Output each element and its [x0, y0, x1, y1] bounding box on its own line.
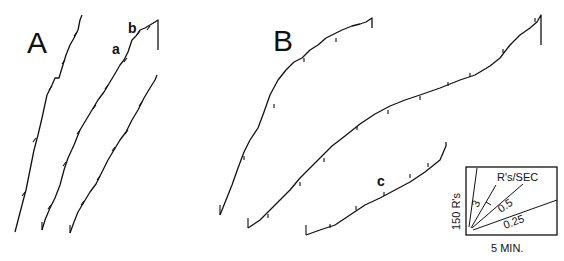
key-y-label: 150 R's	[450, 193, 462, 230]
record-b3	[306, 142, 446, 235]
key-rate-label: R's/SEC	[497, 171, 538, 183]
key-dash	[486, 202, 491, 205]
key-025-label: 0.25	[502, 212, 526, 231]
record-a2	[42, 20, 158, 230]
pip	[306, 163, 428, 235]
key-05-label: 0.5	[495, 196, 514, 215]
record-a1	[15, 15, 82, 232]
slope-line-3	[469, 168, 477, 227]
pip	[42, 26, 150, 230]
record-a3	[70, 75, 157, 233]
panel-label-a: A	[27, 26, 47, 59]
annotation-a: a	[112, 41, 120, 57]
annotation-b: b	[128, 20, 137, 36]
slope-key: R's/SEC 3 0.5 0.25 150 R's 5 MIN.	[450, 167, 557, 254]
key-3-label: 3	[469, 198, 482, 209]
key-x-label: 5 MIN.	[491, 242, 523, 254]
annotation-c: c	[377, 173, 385, 189]
cumulative-record-figure: A a b B c R's/SEC 3 0.5 0.25 150 R's 5 M…	[0, 0, 564, 261]
pip	[220, 38, 336, 215]
panel-label-b: B	[273, 24, 293, 57]
record-b1	[220, 18, 372, 215]
